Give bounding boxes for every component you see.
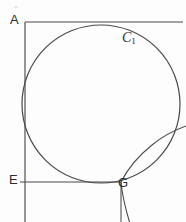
- circle-c1: [22, 25, 180, 183]
- geometry-canvas: [0, 0, 186, 222]
- geometry-figure: A E G C1: [0, 0, 186, 222]
- circle-label-c1: C1: [122, 31, 136, 46]
- circle-label-c1-base: C: [122, 30, 131, 45]
- point-label-g: G: [118, 176, 128, 189]
- point-label-a: A: [10, 13, 19, 26]
- circle-label-c1-subscript: 1: [131, 36, 136, 46]
- point-label-e: E: [9, 173, 18, 186]
- tangent-curve-upper: [121, 126, 186, 182]
